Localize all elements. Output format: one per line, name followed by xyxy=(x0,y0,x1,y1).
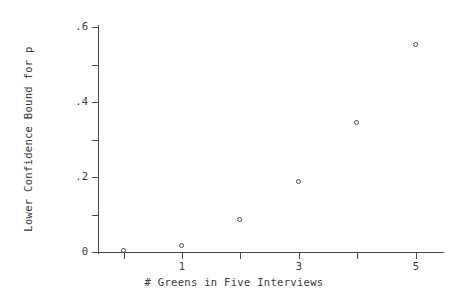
x-axis-spine xyxy=(98,252,444,253)
y-tick-mark xyxy=(92,252,98,253)
data-point-marker xyxy=(179,243,184,248)
y-tick-mark xyxy=(92,215,98,216)
x-tick-mark xyxy=(182,253,183,259)
data-point-marker xyxy=(237,217,242,222)
y-tick-mark xyxy=(92,27,98,28)
x-tick-label: 3 xyxy=(289,260,309,272)
data-point-marker xyxy=(296,179,301,184)
data-point-marker xyxy=(121,248,126,253)
x-tick-mark xyxy=(124,253,125,259)
y-axis-spine xyxy=(98,25,99,254)
data-point-marker xyxy=(354,120,359,125)
y-tick-label: 0 xyxy=(54,245,88,257)
x-tick-label: 5 xyxy=(406,260,426,272)
x-tick-mark xyxy=(357,253,358,259)
scatter-chart-figure: 0.2.4.6 135 # Greens in Five Interviews … xyxy=(0,0,468,304)
y-tick-label: .2 xyxy=(54,170,88,182)
y-tick-mark xyxy=(92,140,98,141)
y-axis-title: Lower Confidence Bound for p xyxy=(22,29,34,249)
x-axis-title: # Greens in Five Interviews xyxy=(0,276,468,288)
y-tick-mark xyxy=(92,177,98,178)
x-tick-mark xyxy=(416,253,417,259)
y-tick-label: .4 xyxy=(54,95,88,107)
y-tick-mark xyxy=(92,65,98,66)
data-point-marker xyxy=(413,42,418,47)
x-tick-mark xyxy=(240,253,241,259)
x-tick-mark xyxy=(299,253,300,259)
x-tick-label: 1 xyxy=(172,260,192,272)
y-tick-label: .6 xyxy=(54,20,88,32)
y-tick-mark xyxy=(92,102,98,103)
